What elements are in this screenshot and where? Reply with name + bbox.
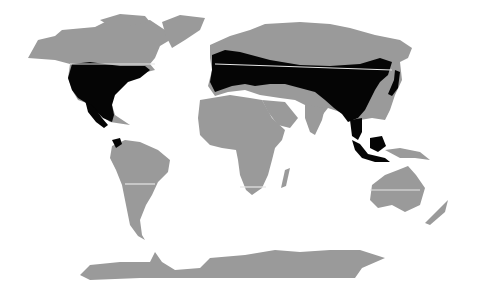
land-greenland: [162, 15, 205, 48]
world-map: [0, 0, 483, 292]
range-southeast-asia: [350, 118, 362, 140]
land-australia: [370, 166, 425, 212]
land-madagascar: [281, 168, 290, 188]
land-indonesia-east: [385, 148, 430, 160]
world-map-svg: [0, 0, 483, 292]
range-north-america: [68, 62, 150, 122]
land-antarctica: [80, 250, 385, 280]
range-borneo: [370, 136, 386, 152]
land-india: [305, 105, 325, 135]
land-south-america: [110, 140, 170, 240]
land-new-zealand: [425, 200, 448, 225]
